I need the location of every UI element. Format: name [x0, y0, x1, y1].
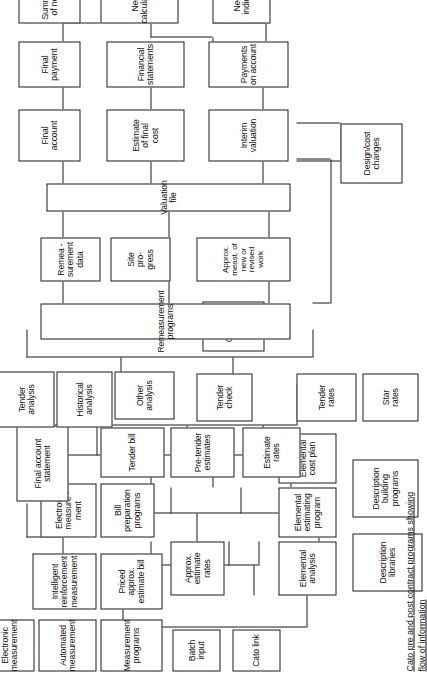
connector	[170, 487, 171, 513]
node-payments-on-account[interactable]: Payments on account	[208, 41, 288, 87]
node-batch-input[interactable]: Batch input	[172, 629, 220, 671]
node-pre-tender-estimates[interactable]: Pre-tender estimates	[170, 427, 234, 477]
node-elemental-estimating-program[interactable]: Elemental estimating program	[278, 487, 336, 537]
connector	[228, 541, 229, 565]
connector	[296, 160, 340, 161]
flow-diagram-canvas: Batch input Cato link Approx. estimate r…	[0, 0, 427, 689]
node-final-account[interactable]: Final account	[18, 109, 80, 161]
node-final-payment[interactable]: Final payment	[18, 41, 80, 87]
node-tender-analysis[interactable]: Tender analysis	[0, 371, 54, 427]
node-approx-estimate-rates[interactable]: Approx. estimate rates	[170, 541, 224, 595]
node-interim-valuation[interactable]: Interim valuation	[208, 109, 288, 161]
connector	[312, 302, 330, 303]
connector	[330, 159, 331, 303]
connector	[62, 281, 63, 303]
node-approx-meast[interactable]: Approx. meast. of new or revised work	[196, 237, 290, 281]
connector	[62, 161, 63, 183]
node-electronic-measurement[interactable]: Electronic measurement	[0, 619, 34, 671]
connector	[240, 487, 241, 513]
connector	[306, 591, 307, 627]
node-nedo-calculations[interactable]: Nedo calculations	[100, 0, 178, 23]
node-financial-statements[interactable]: Financial statements	[106, 41, 184, 87]
node-priced-approx-estimate-bill[interactable]: Priced approx. estimate bill	[100, 553, 162, 609]
node-measurement-programs[interactable]: Measurement programs	[100, 619, 162, 671]
connector	[62, 23, 63, 41]
connector	[62, 87, 63, 109]
node-valuation-file[interactable]: Valuation file	[46, 183, 290, 211]
connector	[150, 161, 151, 183]
node-automated-measurement[interactable]: Automated measurement	[38, 619, 96, 671]
node-site-progress[interactable]: Site pro- gress	[110, 237, 170, 281]
node-cato-link[interactable]: Cato link	[232, 629, 280, 671]
node-tender-rates[interactable]: Tender rates	[296, 373, 356, 421]
node-remeasurement-data[interactable]: Remea - surement data	[40, 237, 100, 281]
node-historical-analysis[interactable]: Historical analysis	[56, 371, 112, 427]
connector	[26, 356, 312, 357]
node-bill-preparation-programs[interactable]: Bill preparation programs	[100, 483, 154, 537]
connector	[258, 541, 259, 565]
connector	[262, 87, 263, 109]
connector	[268, 211, 269, 237]
connector	[26, 329, 27, 357]
connector	[62, 211, 63, 237]
connector	[262, 161, 263, 183]
node-estimate-rates[interactable]: Estimate rates	[242, 427, 300, 477]
connector	[265, 23, 266, 41]
connector	[96, 425, 97, 455]
node-nedo-indices[interactable]: Nedo indices	[212, 0, 270, 23]
connector	[150, 36, 212, 37]
connector	[268, 281, 269, 303]
figure-caption: Cato pre and post contract programs show…	[404, 371, 427, 671]
connector	[296, 122, 340, 123]
connector	[196, 513, 197, 541]
node-remeasurement-programs[interactable]: Remeasurement programs	[40, 303, 290, 339]
connector	[296, 158, 330, 159]
node-intelligent-reinforcement-measurement[interactable]: Intelligent reinforcement measurement	[32, 553, 96, 609]
node-other-analysis[interactable]: Other analysis	[114, 371, 174, 419]
connector	[253, 565, 254, 595]
connector	[150, 23, 151, 37]
connector	[168, 211, 169, 237]
node-tender-check[interactable]: Tender check	[196, 373, 252, 421]
node-tender-bill[interactable]: Tender bill	[100, 427, 164, 477]
connector	[26, 503, 27, 537]
node-estimate-of-final-cost[interactable]: Estimate of final cost	[106, 109, 184, 161]
connector	[312, 329, 313, 357]
node-summary-of-nedo[interactable]: Summary of nedo	[18, 0, 80, 23]
node-design-cost-changes[interactable]: Design/cost changes	[340, 123, 402, 183]
node-tender-analysis[interactable]	[288, 405, 290, 407]
node-elemental-analysis[interactable]: Elemental analysis	[278, 541, 336, 595]
node-final-account-statement[interactable]: Final account statement	[16, 425, 68, 501]
connector	[150, 87, 151, 109]
